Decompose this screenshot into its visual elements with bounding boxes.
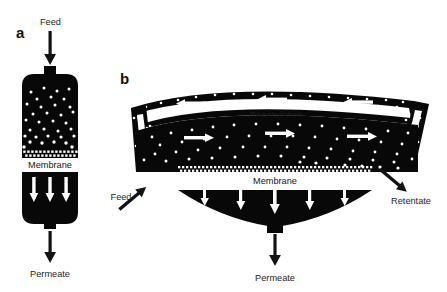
panel-b-membrane-label: Membrane: [253, 176, 297, 186]
panel-b: b: [111, 70, 431, 283]
panel-a-permeate-arrow-out: [44, 231, 56, 263]
panel-b-membrane-band: Membrane: [174, 173, 376, 190]
panel-b-letter: b: [120, 70, 129, 87]
panel-b-permeate-label: Permeate: [255, 273, 295, 283]
figure-root: a Feed: [0, 0, 447, 292]
panel-b-retentate-label: Retentate: [391, 196, 431, 206]
panel-a-feed-label: Feed: [40, 17, 61, 27]
panel-a-membrane-band: Membrane: [22, 158, 78, 172]
panel-a-feed-arrow: [44, 31, 56, 65]
panel-a-membrane-label: Membrane: [28, 160, 72, 170]
panel-a-letter: a: [16, 24, 25, 41]
panel-a-vessel: [22, 66, 78, 229]
panel-b-permeate-arrow-out: [269, 234, 281, 266]
panel-a-permeate-label: Permeate: [30, 269, 70, 279]
panel-b-feed-label: Feed: [111, 192, 132, 202]
panel-a: a Feed: [16, 17, 78, 279]
